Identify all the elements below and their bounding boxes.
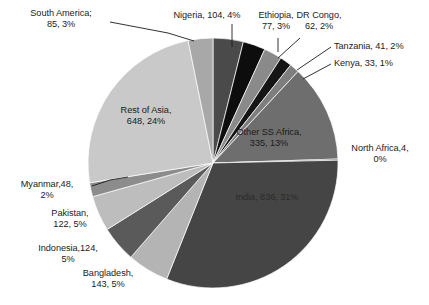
pie-slices-group	[88, 38, 338, 288]
slice-label-other-ss-africa: Other SS Africa, 335, 13%	[222, 127, 316, 150]
slice-label-indonesia: Indonesia,124, 5%	[14, 243, 122, 266]
slice-label-pakistan: Pakistan, 122, 5%	[32, 208, 108, 231]
leader-line-dr-congo	[278, 38, 300, 58]
slice-label-dr-congo: DR Congo, 62, 2%	[286, 10, 352, 33]
pie-chart-figure: South America; 85, 3% Nigeria, 104, 4% E…	[0, 0, 429, 305]
leader-line-kenya	[303, 64, 331, 79]
slice-label-kenya: Kenya, 33, 1%	[334, 58, 424, 69]
leader-line-south-america	[110, 22, 194, 41]
slice-label-tanzania: Tanzania, 41, 2%	[334, 41, 428, 52]
slice-label-myanmar: Myanmar,48, 2%	[4, 179, 90, 202]
slice-label-north-africa: North Africa,4, 0%	[340, 143, 420, 166]
slice-label-south-america: South America; 85, 3%	[2, 8, 120, 31]
slice-label-rest-of-asia: Rest of Asia, 648, 24%	[102, 105, 190, 128]
slice-label-bangladesh: Bangladesh, 143, 5%	[60, 268, 156, 291]
slice-label-india: India, 836, 31%	[215, 192, 319, 203]
